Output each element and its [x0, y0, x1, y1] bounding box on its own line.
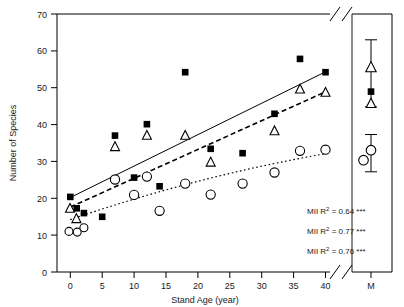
data-point [182, 69, 189, 76]
y-tick-40: 40 [37, 120, 47, 130]
x-tick-15: 15 [161, 281, 171, 291]
data-point [142, 130, 151, 139]
annotation-2-prefix: MII R [307, 227, 326, 236]
y-tick-50: 50 [37, 83, 47, 93]
x-tick-10: 10 [129, 281, 139, 291]
y-tick-0: 0 [42, 268, 47, 278]
data-point [271, 111, 278, 118]
y-tick-30: 30 [37, 157, 47, 167]
data-point [66, 204, 75, 213]
y-tick-60: 60 [37, 46, 47, 56]
x-tick-20: 20 [193, 281, 203, 291]
x-axis-title: Stand Age (year) [171, 295, 239, 305]
data-point [67, 194, 74, 201]
x-tick-5: 5 [100, 281, 105, 291]
data-point [270, 126, 279, 135]
data-point [239, 150, 246, 157]
series-open-triangle-markers [66, 84, 331, 222]
y-axis-ticks [51, 14, 57, 272]
data-point [112, 132, 119, 139]
axis-break-top-icon [330, 7, 352, 21]
data-point [81, 210, 88, 217]
mature-point-triangle-lower [366, 98, 375, 107]
annotation-1-prefix: MII R [307, 207, 326, 216]
data-point [80, 224, 88, 232]
y-tick-20: 20 [37, 194, 47, 204]
y-tick-10: 10 [37, 231, 47, 241]
fit-line-open-circle [70, 154, 325, 220]
annotation-2-suffix: = 0.77 *** [329, 227, 365, 236]
data-point [206, 157, 215, 166]
data-point [295, 146, 304, 155]
fit-line-open-triangle [70, 92, 325, 207]
data-point [73, 205, 80, 212]
mature-point-circle-upper [366, 145, 376, 155]
data-point [131, 174, 138, 181]
x-tick-mature: M [367, 281, 375, 291]
data-point [99, 214, 106, 221]
annotation-line-2: MII R2 = 0.77 *** [307, 226, 366, 236]
data-point [181, 130, 190, 139]
data-point [110, 175, 119, 184]
data-point [321, 145, 330, 154]
scatter-chart: 70 60 50 40 30 20 10 0 0 5 10 15 [0, 0, 404, 307]
data-point [181, 179, 190, 188]
y-axis-tick-labels: 70 60 50 40 30 20 10 0 [37, 10, 47, 278]
annotation-line-3: MII R2 = 0.76 *** [307, 246, 366, 256]
mature-point-triangle-upper [366, 62, 376, 72]
x-tick-40: 40 [320, 281, 330, 291]
data-point [111, 142, 120, 151]
fit-line-filled-square [70, 72, 325, 198]
series-open-circle-markers [65, 145, 330, 236]
x-tick-35: 35 [289, 281, 299, 291]
annotation-line-1: MII R2 = 0.64 *** [307, 206, 366, 216]
x-tick-30: 30 [257, 281, 267, 291]
annotation-3-prefix: MII R [307, 247, 326, 256]
data-point [270, 168, 279, 177]
annotation-3-suffix: = 0.76 *** [329, 247, 365, 256]
x-tick-25: 25 [225, 281, 235, 291]
series-filled-square-markers [67, 56, 329, 221]
data-point [72, 214, 81, 223]
data-point [297, 56, 304, 63]
figure-container: 70 60 50 40 30 20 10 0 0 5 10 15 [0, 0, 404, 307]
data-point [156, 183, 163, 190]
data-point [206, 190, 215, 199]
mature-point-circle-lower [359, 155, 369, 165]
data-point [321, 88, 330, 97]
fit-lines [70, 72, 325, 220]
data-point [130, 190, 139, 199]
data-point [155, 206, 164, 215]
mature-point-square [368, 88, 375, 95]
data-point [322, 69, 329, 76]
regression-annotations: MII R2 = 0.64 *** MII R2 = 0.77 *** MII … [307, 206, 366, 256]
x-tick-0: 0 [68, 281, 73, 291]
data-point [142, 172, 151, 181]
data-point [238, 179, 247, 188]
mature-stand-group [359, 40, 377, 172]
data-point [207, 146, 214, 153]
data-point [65, 227, 73, 235]
annotation-1-suffix: = 0.64 *** [329, 207, 365, 216]
axis-break-bottom-icon [330, 265, 352, 279]
y-axis-title: Number of Species [8, 104, 18, 181]
data-point [144, 121, 151, 128]
x-axis-ticks [70, 272, 371, 278]
x-axis-tick-labels: 0 5 10 15 20 25 30 35 40 M [68, 281, 375, 291]
y-tick-70: 70 [37, 10, 47, 20]
